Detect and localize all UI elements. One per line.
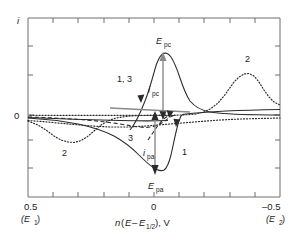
curve-label-2-lower: 2 xyxy=(62,148,67,158)
bottom-ticks xyxy=(53,192,255,197)
epa-sub: pa xyxy=(156,186,164,194)
cv-plot-svg: i 0 E pc E pa i pc i pa 1, 3 1 2 2 3 0.5… xyxy=(0,0,299,240)
x-caption-E: E xyxy=(125,217,132,228)
epc-annotation: E pc xyxy=(156,36,172,49)
ipc-baseline-lead xyxy=(110,108,190,112)
curve-label-1: 1 xyxy=(182,147,187,157)
ipc-annotation: i pc xyxy=(148,85,160,98)
y-zero-label: 0 xyxy=(14,110,19,121)
x-tick-label-right: –0.5 (E 2 ) xyxy=(262,201,285,226)
cv-figure: i 0 E pc E pa i pc i pa 1, 3 1 2 2 3 0.5… xyxy=(0,0,299,240)
x-caption-close: ), V xyxy=(155,217,170,228)
x-sublabel-E1-base: (E xyxy=(21,214,31,224)
epc-sub: pc xyxy=(164,41,172,49)
curve-2-path xyxy=(28,74,280,143)
epa-base: E xyxy=(148,181,155,191)
x-tick-label-0point5: 0.5 xyxy=(24,201,37,212)
ipc-base: i xyxy=(148,85,151,95)
y-axis-label: i xyxy=(17,15,20,26)
ipa-sub: pa xyxy=(147,153,155,161)
right-ticks xyxy=(274,46,280,168)
ipa-annotation: i pa xyxy=(143,148,155,161)
epc-base: E xyxy=(156,36,163,46)
x-tick-label-minus0point5: –0.5 xyxy=(262,201,281,212)
x-sublabel-E1-tail: ) xyxy=(37,214,40,224)
x-tick-label-zero: 0 xyxy=(151,201,156,212)
curve-3-rise xyxy=(148,116,169,140)
x-caption-minus: – xyxy=(132,217,138,228)
ipa-base: i xyxy=(143,148,146,158)
x-axis-caption: n ( E – E 1/2 ), V xyxy=(115,217,170,230)
ipc-sub: pc xyxy=(152,90,160,98)
epa-annotation: E pa xyxy=(148,181,164,194)
ipc-arrow xyxy=(159,52,166,120)
top-ticks xyxy=(53,18,255,23)
curve-label-1-3: 1, 3 xyxy=(117,74,132,84)
x-sublabel-E2-tail: ) xyxy=(282,214,285,224)
curve-label-2-upper: 2 xyxy=(245,54,250,64)
x-tick-label-left: 0.5 (E 1 ) xyxy=(21,201,40,226)
x-caption-n: n xyxy=(115,217,120,228)
left-ticks xyxy=(28,46,34,168)
x-caption-Ehalf: E xyxy=(139,217,146,228)
x-sublabel-E2-base: (E xyxy=(266,214,276,224)
curve-label-3: 3 xyxy=(128,133,133,143)
